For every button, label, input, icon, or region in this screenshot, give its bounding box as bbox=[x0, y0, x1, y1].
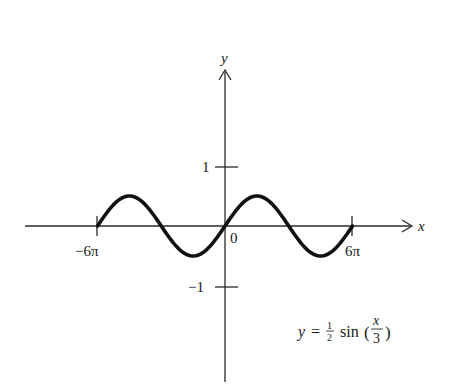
equation-annotation: y = 1 2 sin ( x 3 ) bbox=[296, 313, 391, 346]
eq-half-den: 2 bbox=[327, 332, 332, 343]
eq-equals: = bbox=[311, 323, 320, 340]
y-tick-label-1: 1 bbox=[202, 159, 210, 175]
x-tick-label-6pi: 6π bbox=[345, 243, 361, 259]
sine-plot: x y 1 −1 −6π 6π 0 y = 1 2 sin ( x 3 ) bbox=[0, 0, 454, 388]
origin-label: 0 bbox=[230, 230, 238, 246]
eq-frac-num: x bbox=[372, 313, 380, 328]
eq-sin: sin bbox=[340, 323, 359, 340]
eq-half-num: 1 bbox=[327, 320, 332, 331]
eq-close-paren: ) bbox=[385, 323, 391, 342]
x-axis-label: x bbox=[417, 218, 425, 234]
x-tick-label-neg6pi: −6π bbox=[75, 243, 99, 259]
y-tick-label-neg1: −1 bbox=[188, 279, 204, 295]
eq-open-paren: ( bbox=[364, 323, 370, 342]
eq-frac-den: 3 bbox=[373, 331, 380, 346]
eq-y: y bbox=[296, 323, 306, 341]
y-axis-label: y bbox=[219, 50, 228, 66]
